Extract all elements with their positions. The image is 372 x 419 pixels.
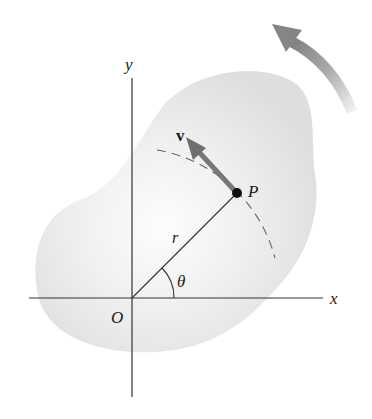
rigid-body-shape <box>35 71 316 352</box>
velocity-label: v <box>176 126 185 145</box>
point-P <box>232 188 242 198</box>
radius-label: r <box>172 229 179 246</box>
y-axis-label: y <box>123 55 133 74</box>
point-P-label: P <box>247 182 258 201</box>
x-axis-label: x <box>329 289 338 308</box>
angle-label: θ <box>177 272 185 291</box>
origin-label: O <box>111 308 123 327</box>
rotating-body-diagram: y x O P v r θ <box>0 0 372 419</box>
